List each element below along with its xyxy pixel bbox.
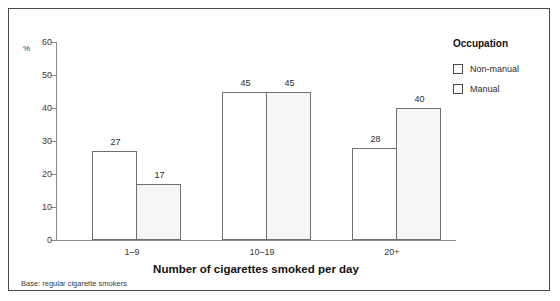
y-tick: 60	[56, 42, 57, 43]
bar-nonmanual-2[interactable]: 45	[222, 92, 267, 241]
legend-item-label: Non-manual	[470, 65, 519, 74]
y-tick: 40	[56, 108, 57, 109]
y-tick-label: 50	[42, 71, 52, 80]
bar-manual-3[interactable]: 40	[396, 108, 441, 240]
legend-item-label: Manual	[470, 85, 500, 94]
x-axis-line	[56, 240, 456, 241]
y-tick: 50	[56, 75, 57, 76]
chart-figure: % 0102030405060 271745452840 1–910–1920+…	[8, 8, 550, 291]
legend-item-manual[interactable]: Manual	[453, 84, 548, 94]
x-category-label: 10–19	[202, 248, 322, 257]
bar-group: 2717	[92, 42, 182, 240]
y-tick-label: 20	[42, 170, 52, 179]
bar-value-label: 28	[353, 135, 398, 144]
bar-value-label: 45	[223, 79, 268, 88]
y-tick-label: 10	[42, 203, 52, 212]
bar-nonmanual-1[interactable]: 27	[92, 151, 137, 240]
legend: Occupation Non-manualManual	[453, 39, 548, 104]
bar-group: 2840	[352, 42, 442, 240]
bar-value-label: 27	[93, 138, 138, 147]
legend-swatch-icon	[453, 84, 463, 94]
legend-title: Occupation	[453, 39, 548, 49]
y-tick: 20	[56, 174, 57, 175]
y-tick: 10	[56, 207, 57, 208]
chart-footnote: Base: regular cigarette smokers	[21, 280, 127, 288]
y-tick: 0	[56, 240, 57, 241]
legend-items: Non-manualManual	[453, 64, 548, 94]
legend-swatch-icon	[453, 64, 463, 74]
y-tick-label: 60	[42, 38, 52, 47]
x-category-label: 20+	[332, 248, 452, 257]
y-axis-unit-label: %	[23, 45, 30, 53]
bar-value-label: 17	[137, 171, 182, 180]
plot-area: 0102030405060 271745452840 1–910–1920+	[56, 42, 456, 241]
bar-group: 4545	[222, 42, 312, 240]
bar-manual-1[interactable]: 17	[136, 184, 181, 240]
y-tick-label: 30	[42, 137, 52, 146]
chart-title: Number of cigarettes smoked per day	[56, 264, 456, 276]
bar-value-label: 45	[267, 79, 312, 88]
legend-item-non-manual[interactable]: Non-manual	[453, 64, 548, 74]
y-tick-label: 0	[47, 236, 52, 245]
bar-manual-2[interactable]: 45	[266, 92, 311, 241]
x-category-label: 1–9	[72, 248, 192, 257]
bar-nonmanual-3[interactable]: 28	[352, 148, 397, 240]
bar-value-label: 40	[397, 95, 442, 104]
y-tick: 30	[56, 141, 57, 142]
y-tick-label: 40	[42, 104, 52, 113]
